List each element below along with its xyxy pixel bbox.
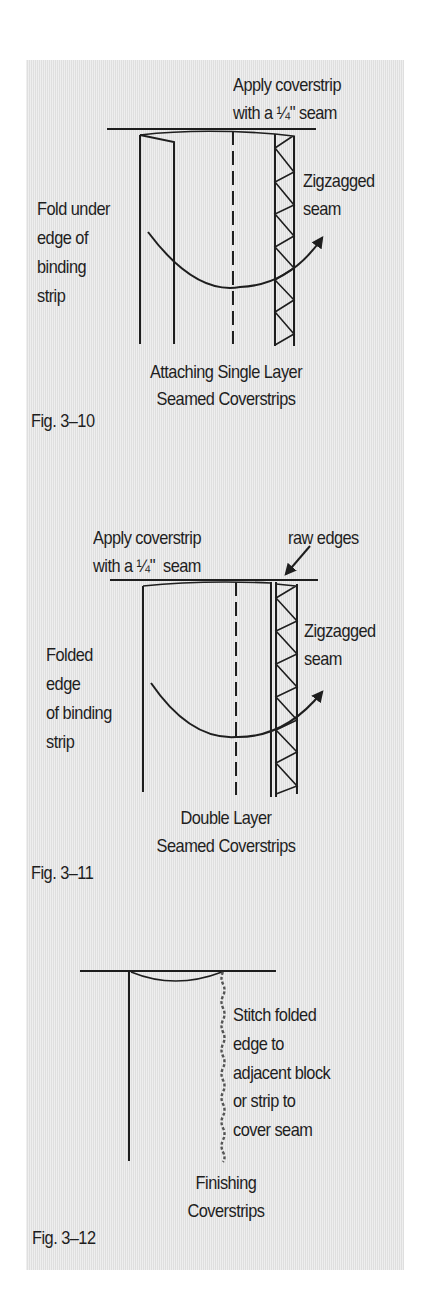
fig-3-10-left-label-3: binding [37, 252, 86, 281]
fig-3-10-number: Fig. 3–10 [31, 406, 94, 435]
fig-3-12-caption-2: Coverstrips [123, 1196, 329, 1225]
fig-3-10-right-label-2: seam [303, 194, 341, 223]
fig-3-12-caption-1: Finishing [123, 1168, 329, 1197]
fig-3-12-right-label-1: Stitch folded [233, 1000, 316, 1029]
fig-3-11-top-label-1: Apply coverstrip [93, 523, 201, 552]
fig-3-11-number: Fig. 3–11 [31, 858, 93, 887]
fig-3-11-left-label-2: edge [46, 669, 80, 698]
fig-3-11-top-label-2: with a ¼" seam [93, 551, 201, 580]
fig-3-11-left-label-1: Folded [46, 640, 93, 669]
fig-3-11-left-label-3: of binding [46, 698, 112, 727]
fig-3-11-caption-2: Seamed Coverstrips [123, 831, 329, 860]
fig-3-10-drawing [107, 129, 322, 346]
fig-3-10-caption-2: Seamed Coverstrips [123, 384, 329, 413]
fig-3-12-right-label-4: or strip to [233, 1086, 295, 1115]
fig-3-12-number: Fig. 3–12 [32, 1223, 95, 1252]
fig-3-10-caption-1: Attaching Single Layer [123, 357, 329, 386]
fig-3-10-left-label-4: strip [37, 281, 65, 310]
fig-3-11-left-label-4: strip [46, 727, 74, 756]
fig-3-10-left-label-2: edge of [37, 223, 88, 252]
fig-3-11-raw-edges-label: raw edges [288, 523, 359, 552]
fig-3-11-caption-1: Double Layer [123, 803, 329, 832]
fig-3-10-top-label-1: Apply coverstrip [233, 70, 341, 99]
fig-3-10-right-label-1: Zigzagged [303, 166, 375, 195]
fig-3-11-drawing [110, 546, 322, 797]
fig-3-12-right-label-3: adjacent block [233, 1058, 330, 1087]
fig-3-12-right-label-2: edge to [233, 1029, 284, 1058]
fig-3-12-right-label-5: cover seam [233, 1115, 312, 1144]
fig-3-10-left-label-1: Fold under [37, 194, 110, 223]
fig-3-10-top-label-2: with a ¼" seam [233, 98, 337, 127]
fig-3-11-right-label-1: Zigzagged [304, 616, 376, 645]
fig-3-11-right-label-2: seam [304, 644, 342, 673]
